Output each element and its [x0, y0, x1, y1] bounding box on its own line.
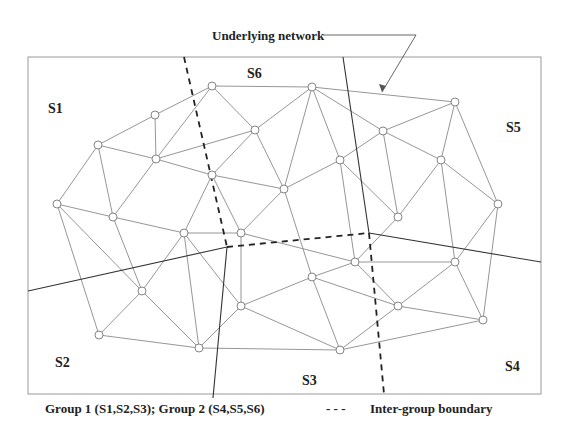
- network-diagram: Underlying network S1S2S3S4S5S6 Group 1 …: [0, 0, 571, 432]
- network-edge: [340, 306, 398, 350]
- underlying-network-pointer: [323, 35, 416, 92]
- groups-caption: Group 1 (S1,S2,S3); Group 2 (S4,S5,S6): [45, 401, 265, 416]
- network-node: [336, 346, 344, 354]
- network-edge: [455, 102, 498, 204]
- network-edge: [142, 233, 184, 291]
- network-edge: [312, 277, 398, 306]
- network-node: [351, 258, 359, 266]
- network-edge: [155, 115, 156, 159]
- network-edge: [212, 86, 312, 87]
- network-edge: [98, 145, 113, 217]
- network-edge: [312, 87, 340, 160]
- network-edge: [441, 102, 455, 160]
- region-label-s1: S1: [48, 101, 63, 116]
- inter-group-boundary: [184, 57, 384, 394]
- legend-text: Inter-group boundary: [370, 401, 493, 416]
- network-node: [437, 156, 445, 164]
- network-node: [208, 82, 216, 90]
- network-node: [451, 258, 459, 266]
- network-node: [494, 200, 502, 208]
- region-label-s6: S6: [247, 66, 262, 81]
- arrowhead-icon: [379, 84, 386, 92]
- network-node: [152, 155, 160, 163]
- network-edge: [284, 160, 340, 189]
- network-edge: [340, 131, 383, 160]
- network-node: [237, 229, 245, 237]
- network-edge: [383, 102, 455, 131]
- network-edge: [155, 86, 212, 115]
- network-node: [308, 83, 316, 91]
- network-edge: [57, 204, 99, 335]
- network-edge: [156, 86, 212, 159]
- network-edge: [113, 217, 184, 233]
- network-node: [237, 302, 245, 310]
- network-edge: [113, 217, 142, 291]
- pointer-line: [323, 35, 416, 92]
- network-node: [151, 111, 159, 119]
- network-edge: [398, 306, 483, 320]
- network-edge: [241, 277, 312, 306]
- network-edge: [340, 160, 355, 262]
- network-node: [53, 200, 61, 208]
- dashed-boundary-s1-s6: [184, 57, 227, 247]
- network-edge: [184, 233, 199, 348]
- network-edge: [212, 86, 255, 130]
- network-node: [280, 185, 288, 193]
- network-edge: [57, 204, 113, 217]
- network-edge: [398, 262, 455, 306]
- network-edge: [312, 262, 355, 277]
- legend-dash-symbol: - - -: [326, 401, 346, 416]
- network-edge: [99, 291, 142, 335]
- network-node: [308, 273, 316, 281]
- dashed-boundary-s3-s4: [369, 233, 384, 394]
- network-edge: [355, 217, 398, 262]
- network-edge: [340, 320, 483, 350]
- network-edge: [99, 335, 199, 348]
- network-edge: [113, 159, 156, 217]
- network-edge: [98, 115, 155, 145]
- network-edge: [441, 160, 498, 204]
- network-node: [336, 156, 344, 164]
- network-edge: [156, 159, 212, 175]
- underlying-network-label: Underlying network: [212, 28, 325, 43]
- region-label-s2: S2: [55, 355, 70, 370]
- network-edge: [241, 189, 284, 233]
- network-node: [138, 287, 146, 295]
- network-edges: [57, 86, 498, 350]
- network-edge: [455, 262, 483, 320]
- network-edge: [212, 175, 241, 233]
- network-edge: [398, 160, 441, 217]
- network-node: [394, 213, 402, 221]
- network-edge: [241, 306, 340, 350]
- network-node: [109, 213, 117, 221]
- network-edge: [184, 233, 241, 306]
- network-edge: [57, 204, 142, 291]
- network-node: [394, 302, 402, 310]
- network-edge: [142, 291, 199, 348]
- network-edge: [57, 145, 98, 204]
- network-edge: [184, 175, 212, 233]
- network-node: [94, 141, 102, 149]
- network-edge: [355, 262, 398, 306]
- network-edge: [284, 189, 312, 277]
- network-edge: [199, 348, 340, 350]
- network-edge: [241, 233, 355, 262]
- network-node: [251, 126, 259, 134]
- network-edge: [212, 175, 284, 189]
- region-label-s3: S3: [302, 373, 317, 388]
- network-edge: [284, 87, 312, 189]
- region-label-s5: S5: [506, 120, 521, 135]
- network-node: [479, 316, 487, 324]
- network-node: [451, 98, 459, 106]
- network-edge: [383, 131, 441, 160]
- network-edge: [255, 87, 312, 130]
- network-node: [195, 344, 203, 352]
- network-node: [95, 331, 103, 339]
- region-label-s4: S4: [505, 359, 520, 374]
- network-node: [208, 171, 216, 179]
- network-edge: [98, 145, 156, 159]
- network-edge: [255, 130, 284, 189]
- network-node: [180, 229, 188, 237]
- network-node: [379, 127, 387, 135]
